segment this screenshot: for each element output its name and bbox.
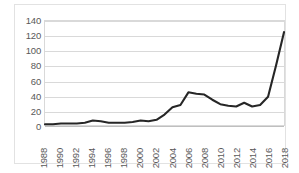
- y-axis-tick-label: 0: [1, 122, 41, 131]
- x-axis-tick-label: 2014: [248, 148, 258, 168]
- x-axis: 1988199019921994199619982000200220042006…: [44, 128, 285, 168]
- y-axis-tick-label: 120: [1, 31, 41, 40]
- x-axis-tick-label: 2002: [151, 148, 161, 168]
- x-axis-tick-label: 1996: [103, 148, 113, 168]
- y-axis: 020406080100120140: [0, 20, 41, 126]
- x-axis-tick-label: 2004: [168, 148, 178, 168]
- y-axis-tick-label: 60: [1, 76, 41, 85]
- x-axis-tick-label: 2012: [232, 148, 242, 168]
- x-axis-tick-label: 1998: [119, 148, 129, 168]
- data-series-line: [45, 21, 284, 125]
- x-axis-tick-label: 2010: [216, 148, 226, 168]
- y-axis-tick-label: 80: [1, 61, 41, 70]
- y-axis-tick-label: 20: [1, 106, 41, 115]
- x-axis-tick-label: 1994: [87, 148, 97, 168]
- x-axis-tick-label: 2008: [200, 148, 210, 168]
- y-axis-tick-label: 140: [1, 16, 41, 25]
- x-axis-tick-label: 2000: [135, 148, 145, 168]
- line-chart: 020406080100120140 198819901992199419961…: [0, 0, 299, 173]
- x-axis-tick-label: 1992: [71, 148, 81, 168]
- x-axis-line: [45, 126, 284, 127]
- x-axis-tick-label: 2016: [264, 148, 274, 168]
- x-axis-tick-label: 2018: [280, 148, 290, 168]
- x-axis-tick-label: 2006: [184, 148, 194, 168]
- y-axis-tick-label: 100: [1, 46, 41, 55]
- plot-area: [44, 20, 285, 126]
- x-axis-tick-label: 1988: [39, 148, 49, 168]
- x-axis-tick-label: 1990: [55, 148, 65, 168]
- y-axis-tick-label: 40: [1, 91, 41, 100]
